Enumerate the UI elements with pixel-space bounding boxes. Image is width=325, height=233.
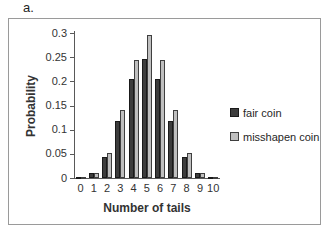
y-tick-label: 0.05 [9, 147, 67, 160]
x-tick-label: 4 [127, 182, 141, 194]
figure-panel: a. Probability 00.050.10.150.20.250.3 01… [0, 0, 325, 233]
x-tick-label: 1 [87, 182, 101, 194]
legend-item-misshapen-coin: misshapen coin [230, 131, 319, 142]
y-tick-label: 0.15 [9, 99, 67, 112]
y-tick-mark [70, 130, 74, 131]
y-tick-mark [70, 106, 74, 107]
bar-misshapen-coin-3 [120, 110, 125, 178]
y-tick-label: 0.3 [9, 27, 67, 40]
y-tick-label: 0.1 [9, 123, 67, 136]
y-tick-mark [70, 154, 74, 155]
x-tick-label: 2 [100, 182, 114, 194]
legend-label: fair coin [243, 107, 282, 119]
y-tick-mark [70, 33, 74, 34]
y-axis-line [74, 31, 75, 179]
chart-frame: Probability 00.050.10.150.20.250.3 01234… [8, 18, 321, 225]
y-tick-label: 0.25 [9, 51, 67, 64]
x-tick-label: 10 [206, 182, 220, 194]
x-axis-line [74, 178, 220, 179]
bar-misshapen-coin-0 [81, 177, 86, 179]
y-tick-mark [70, 81, 74, 82]
x-tick-label: 0 [74, 182, 88, 194]
legend-swatch-misshapen-coin [230, 132, 239, 141]
y-tick-mark [70, 178, 74, 179]
x-tick-label: 9 [193, 182, 207, 194]
legend-label: misshapen coin [243, 131, 319, 143]
legend-swatch-fair-coin [230, 108, 239, 117]
bar-misshapen-coin-2 [107, 153, 112, 178]
x-tick-label: 5 [140, 182, 154, 194]
legend-item-fair-coin: fair coin [230, 107, 319, 118]
bar-misshapen-coin-10 [213, 177, 218, 179]
y-tick-label: 0 [9, 172, 67, 185]
bar-misshapen-coin-6 [160, 60, 165, 178]
bar-misshapen-coin-5 [147, 35, 152, 178]
x-tick-label: 6 [153, 182, 167, 194]
bar-misshapen-coin-1 [94, 173, 99, 178]
bar-misshapen-coin-7 [173, 110, 178, 178]
bar-misshapen-coin-8 [187, 153, 192, 178]
y-tick-label: 0.2 [9, 75, 67, 88]
figure-label: a. [23, 0, 34, 15]
x-tick-label: 7 [166, 182, 180, 194]
bar-misshapen-coin-4 [134, 60, 139, 178]
y-tick-mark [70, 57, 74, 58]
x-tick-label: 3 [113, 182, 127, 194]
x-axis-title: Number of tails [74, 201, 220, 215]
bar-misshapen-coin-9 [200, 173, 205, 178]
legend: fair coinmisshapen coin [230, 107, 319, 155]
x-tick-label: 8 [180, 182, 194, 194]
